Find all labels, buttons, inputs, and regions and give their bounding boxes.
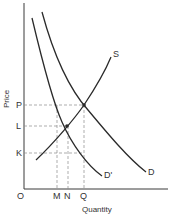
y-label-K: K: [16, 148, 22, 158]
curve-label-S: S: [113, 49, 119, 59]
equilibrium-point-d-prime: [65, 124, 69, 128]
x-label-N: N: [64, 191, 71, 201]
x-label-Q: Q: [80, 191, 87, 201]
demand-curve-d-prime: [32, 18, 102, 176]
x-axis-title: Quantity: [82, 205, 112, 214]
curve-label-D-prime: D': [104, 170, 112, 180]
x-label-M: M: [53, 191, 61, 201]
origin-label: O: [17, 191, 24, 201]
y-label-P: P: [16, 100, 22, 110]
y-axis-title: Price: [2, 89, 11, 108]
y-label-L: L: [16, 121, 21, 131]
demand-curve-d: [42, 12, 146, 172]
equilibrium-point-d: [82, 103, 86, 107]
curve-label-D: D: [148, 167, 155, 177]
supply-demand-chart: P L K O M N Q S D D' Quantity Price: [0, 0, 171, 222]
